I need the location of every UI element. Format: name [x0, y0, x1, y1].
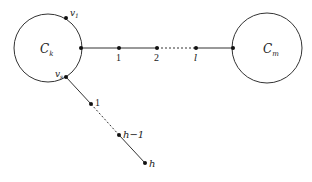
label-top-1: 1 [116, 52, 121, 63]
label-ck: Ck [40, 42, 53, 58]
node-top-l [194, 46, 198, 50]
node-v1 [64, 16, 68, 20]
label-cm: Cm [263, 42, 279, 58]
label-bot-1: 1 [95, 97, 100, 108]
edge-bottom-dashed [91, 104, 119, 135]
graph-diagram: Ck Cm v1 vs 1 2 l 1 h−1 h [0, 0, 312, 182]
node-cm-attach [231, 46, 235, 50]
label-top-l: l [194, 52, 197, 63]
node-bot-1 [89, 102, 93, 106]
label-top-2: 2 [154, 52, 159, 63]
node-ck-attach [79, 46, 83, 50]
node-vs [64, 75, 68, 79]
node-bot-h [143, 161, 147, 165]
label-bot-h1: h−1 [123, 129, 144, 140]
label-v1: v1 [70, 8, 79, 19]
node-bot-h1 [117, 133, 121, 137]
label-vs: vs [55, 69, 63, 80]
node-top-2 [155, 46, 159, 50]
edge-bottom-solid-upper [66, 77, 91, 104]
label-bot-h: h [149, 158, 155, 169]
node-top-1 [117, 46, 121, 50]
